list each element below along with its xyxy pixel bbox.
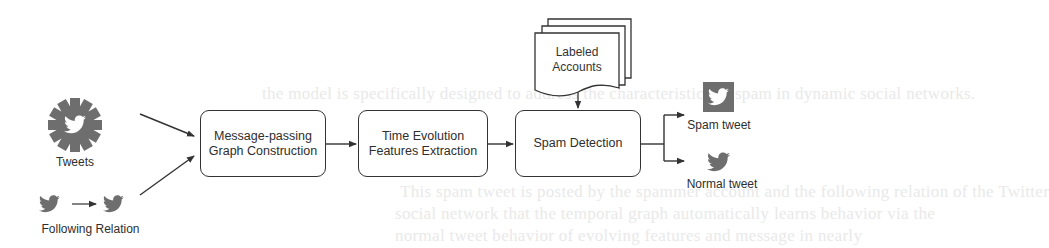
twitter-bird-icon xyxy=(707,152,730,171)
box-line: Time Evolution xyxy=(369,129,477,144)
labeled-line: Labeled xyxy=(535,45,619,60)
time-evolution-box: Time Evolution Features Extraction xyxy=(358,110,488,177)
following-arrow xyxy=(140,156,194,195)
box-line: Spam Detection xyxy=(534,136,623,151)
twitter-bird-icon xyxy=(103,195,124,212)
box-line: Message-passing xyxy=(209,129,317,144)
normal-tweet-label: Normal tweet xyxy=(684,177,760,191)
box-line: Graph Construction xyxy=(209,144,317,159)
spam-tweet-label: Spam tweet xyxy=(686,118,752,132)
labeled-accounts-label: Labeled Accounts xyxy=(535,45,619,75)
box-line: Features Extraction xyxy=(369,144,477,159)
graph-construction-box: Message-passing Graph Construction xyxy=(200,110,326,177)
accounts-line: Accounts xyxy=(535,60,619,75)
twitter-gear-icon xyxy=(48,98,102,152)
spam-detection-box: Spam Detection xyxy=(515,110,641,177)
twitter-bird-icon xyxy=(39,195,60,212)
tweets-arrow xyxy=(140,114,194,136)
output-branch xyxy=(641,115,684,161)
following-relation-label: Following Relation xyxy=(33,222,148,236)
twitter-square-icon xyxy=(703,82,734,112)
tweets-label: Tweets xyxy=(45,155,105,169)
